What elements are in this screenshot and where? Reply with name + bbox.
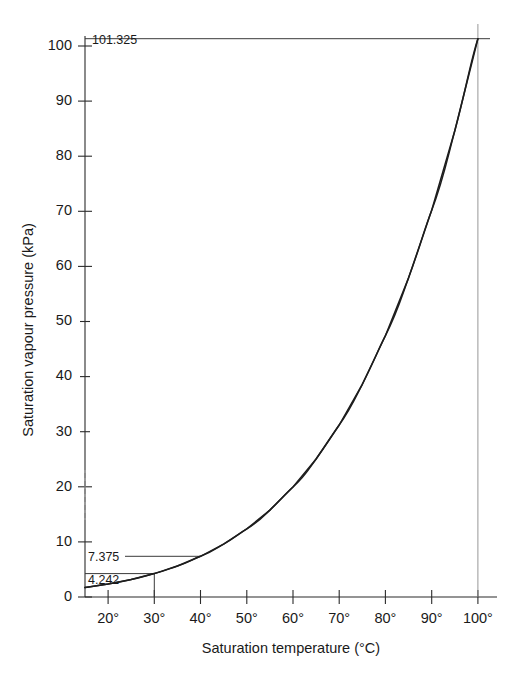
y-tick-label-0: 0	[64, 588, 72, 604]
chart-svg: 0 10 20 30 40 50 60 70 80 90 100 20°	[0, 0, 526, 673]
y-tick-label-80: 80	[56, 147, 72, 163]
y-tick-label-50: 50	[56, 312, 72, 328]
boiling-point-label: 101.325	[92, 33, 137, 47]
x-tick-label-50: 50°	[236, 610, 258, 626]
x-tick-label-70: 70°	[328, 610, 350, 626]
y-tick-label-90: 90	[56, 92, 72, 108]
boiling-point-annotation: 101.325	[85, 24, 490, 597]
x-tick-label-100: 100°	[463, 610, 493, 626]
y-tick-label-40: 40	[56, 367, 72, 383]
y-tick-labels: 0 10 20 30 40 50 60 70 80 90 100	[48, 37, 72, 604]
vapour-pressure-curve-smooth	[85, 39, 478, 588]
vapour-pressure-curve	[85, 39, 478, 588]
pressure-at-40-label: 7.375	[88, 550, 119, 564]
axes-group	[85, 36, 497, 597]
y-tick-label-100: 100	[48, 37, 72, 53]
y-axis-title: Saturation vapour pressure (kPa)	[20, 223, 36, 437]
x-tick-label-60: 60°	[282, 610, 304, 626]
y-tick-label-60: 60	[56, 257, 72, 273]
x-tick-label-40: 40°	[190, 610, 212, 626]
y-tick-label-20: 20	[56, 478, 72, 494]
x-tick-label-80: 80°	[374, 610, 396, 626]
pressure-at-40-annotation: 7.375	[88, 550, 201, 564]
x-tick-label-30: 30°	[143, 610, 165, 626]
y-tick-label-70: 70	[56, 202, 72, 218]
x-tick-label-20: 20°	[97, 610, 119, 626]
x-axis-title: Saturation temperature (°C)	[202, 640, 380, 656]
x-tick-label-90: 90°	[421, 610, 443, 626]
y-tick-label-30: 30	[56, 423, 72, 439]
y-tick-label-10: 10	[56, 533, 72, 549]
x-tick-labels: 20° 30° 40° 50° 60° 70° 80° 90° 100°	[97, 610, 493, 626]
saturation-vapour-pressure-figure: 0 10 20 30 40 50 60 70 80 90 100 20°	[0, 0, 526, 673]
